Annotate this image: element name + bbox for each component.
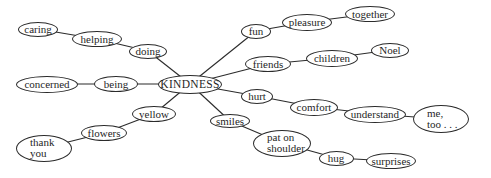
node-label: hurt [248, 91, 266, 102]
mind-map-canvas: KINDNESScaringhelpingdoingconcernedbeing… [0, 0, 491, 178]
node-label: comfort [297, 102, 332, 113]
node-label: surprises [371, 156, 410, 167]
node-surprises: surprises [366, 153, 416, 169]
node-label: doing [135, 46, 160, 57]
node-label: together [352, 9, 388, 20]
node-label: children [314, 53, 350, 64]
node-caring: caring [18, 22, 58, 37]
node-smiles: smiles [210, 114, 250, 128]
node-label: caring [24, 24, 51, 35]
node-label: concerned [24, 79, 69, 90]
node-doing: doing [129, 44, 167, 59]
node-thank-you: thank you [16, 135, 72, 162]
node-label: fun [249, 26, 264, 37]
node-label: smiles [216, 116, 244, 127]
node-label: me, too . . . [427, 108, 458, 130]
node-yellow: yellow [132, 106, 176, 122]
node-fun: fun [241, 24, 271, 39]
node-pleasure: pleasure [282, 14, 332, 31]
node-label: helping [81, 34, 114, 45]
node-being: being [94, 76, 138, 92]
node-together: together [345, 6, 395, 22]
node-hurt: hurt [241, 89, 273, 104]
node-flowers: flowers [81, 125, 127, 141]
node-label: hug [328, 153, 345, 164]
node-label: being [104, 79, 128, 90]
node-comfort: comfort [290, 99, 338, 116]
node-label: Noel [379, 45, 400, 56]
node-friends: friends [245, 56, 291, 72]
node-label: thank you [30, 137, 54, 159]
node-noel: Noel [371, 43, 409, 58]
node-label: pat on shoulder [267, 132, 305, 154]
node-kindness: KINDNESS [158, 75, 222, 94]
node-pat-on-shoulder: pat on shoulder [253, 130, 311, 157]
node-hug: hug [319, 151, 354, 166]
node-label: yellow [139, 109, 169, 120]
node-label: KINDNESS [160, 79, 219, 90]
node-understand: understand [344, 106, 406, 123]
node-concerned: concerned [16, 76, 78, 93]
node-children: children [306, 50, 358, 67]
node-label: flowers [88, 128, 121, 139]
node-label: understand [351, 109, 399, 120]
node-label: pleasure [289, 17, 326, 28]
node-label: friends [253, 59, 284, 70]
node-me-too: me, too . . . [413, 105, 469, 133]
node-helping: helping [72, 31, 122, 47]
